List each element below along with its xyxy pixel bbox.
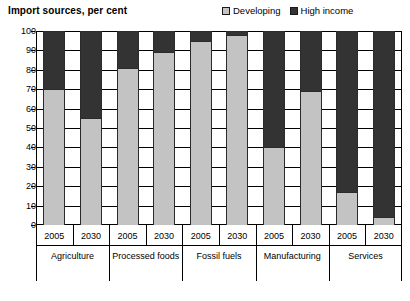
bar-stack: [263, 31, 285, 225]
bar-agriculture-2030: [80, 31, 102, 225]
bar-segment-high-income: [264, 32, 284, 148]
y-tick-mark-60: [31, 109, 35, 110]
x-axis-inner-separator: [292, 225, 293, 246]
bar-segment-developing: [337, 192, 357, 225]
x-axis-year-manufacturing-2005: 2005: [256, 225, 293, 246]
bar-processed-foods-2005: [117, 31, 139, 225]
bar-segment-developing: [118, 68, 138, 225]
chart-container: Import sources, per cent Developing High…: [0, 0, 410, 301]
x-axis-group-manufacturing: Manufacturing: [256, 246, 329, 281]
y-tick-mark-70: [31, 89, 35, 90]
bar-stack: [43, 31, 65, 225]
bars-layer: [36, 31, 402, 225]
x-axis-group-services: Services: [329, 246, 402, 281]
x-axis: 2005203020052030200520302005203020052030…: [36, 225, 402, 281]
x-axis-group-separator: [329, 225, 330, 281]
bar-segment-developing: [264, 147, 284, 225]
bar-segment-developing: [191, 41, 211, 225]
bar-segment-developing: [374, 217, 394, 225]
x-axis-group-row: AgricultureProcessed foodsFossil fuelsMa…: [36, 246, 402, 281]
legend-label-developing: Developing: [233, 5, 281, 16]
y-tick-mark-50: [31, 128, 35, 129]
bar-segment-developing: [227, 35, 247, 225]
y-tick-mark-40: [31, 147, 35, 148]
x-axis-year-processed-foods-2030: 2030: [146, 225, 183, 246]
bar-segment-high-income: [81, 32, 101, 119]
bar-stack: [80, 31, 102, 225]
x-axis-inner-separator: [365, 225, 366, 246]
bar-fossil-fuels-2005: [190, 31, 212, 225]
legend-item-high-income: High income: [290, 5, 354, 16]
x-axis-year-agriculture-2030: 2030: [73, 225, 110, 246]
y-axis: 1009080706050403020100: [0, 31, 36, 225]
bar-services-2005: [336, 31, 358, 225]
x-axis-year-fossil-fuels-2030: 2030: [219, 225, 256, 246]
x-axis-inner-separator: [219, 225, 220, 246]
bar-services-2030: [373, 31, 395, 225]
bar-stack: [336, 31, 358, 225]
y-tick-mark-30: [31, 167, 35, 168]
bar-manufacturing-2030: [300, 31, 322, 225]
bar-segment-high-income: [118, 32, 138, 69]
x-axis-group-separator: [256, 225, 257, 281]
bar-stack: [226, 31, 248, 225]
bar-stack: [300, 31, 322, 225]
bar-stack: [117, 31, 139, 225]
x-axis-right-border: [401, 225, 402, 281]
x-axis-left-border: [36, 225, 37, 281]
chart-legend: Developing High income: [222, 5, 353, 16]
y-tick-mark-100: [31, 31, 35, 32]
bar-stack: [153, 31, 175, 225]
bar-segment-high-income: [337, 32, 357, 193]
bar-segment-high-income: [374, 32, 394, 218]
bar-segment-high-income: [301, 32, 321, 92]
y-tick-mark-80: [31, 70, 35, 71]
y-tick-mark-0: [31, 225, 35, 226]
x-axis-year-agriculture-2005: 2005: [36, 225, 73, 246]
bar-segment-developing: [154, 52, 174, 225]
bar-manufacturing-2005: [263, 31, 285, 225]
bar-agriculture-2005: [43, 31, 65, 225]
bar-fossil-fuels-2030: [226, 31, 248, 225]
bar-stack: [190, 31, 212, 225]
x-axis-year-services-2005: 2005: [329, 225, 366, 246]
y-tick-mark-20: [31, 186, 35, 187]
bar-processed-foods-2030: [153, 31, 175, 225]
bar-stack: [373, 31, 395, 225]
x-axis-group-separator: [182, 225, 183, 281]
x-axis-group-processed-foods: Processed foods: [109, 246, 182, 281]
bar-segment-developing: [44, 89, 64, 225]
x-axis-group-separator: [109, 225, 110, 281]
y-tick-mark-90: [31, 50, 35, 51]
legend-label-high-income: High income: [301, 5, 354, 16]
legend-swatch-high-income: [290, 7, 298, 15]
x-axis-year-manufacturing-2030: 2030: [292, 225, 329, 246]
chart-title: Import sources, per cent: [8, 5, 127, 16]
x-axis-year-processed-foods-2005: 2005: [109, 225, 146, 246]
x-axis-group-agriculture: Agriculture: [36, 246, 109, 281]
x-axis-inner-separator: [146, 225, 147, 246]
x-axis-inner-separator: [73, 225, 74, 246]
y-tick-mark-10: [31, 206, 35, 207]
bar-segment-high-income: [44, 32, 64, 90]
bar-segment-high-income: [154, 32, 174, 53]
bar-segment-developing: [301, 91, 321, 225]
x-axis-year-services-2030: 2030: [365, 225, 402, 246]
bar-segment-developing: [81, 118, 101, 225]
x-axis-group-fossil-fuels: Fossil fuels: [182, 246, 255, 281]
x-axis-year-fossil-fuels-2005: 2005: [182, 225, 219, 246]
legend-item-developing: Developing: [222, 5, 281, 16]
legend-swatch-developing: [222, 7, 230, 15]
